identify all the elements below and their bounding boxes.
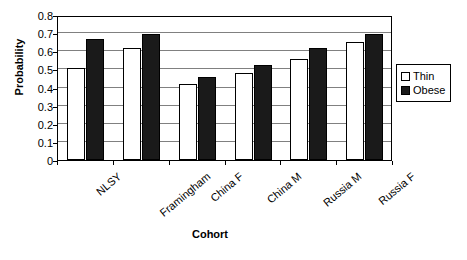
y-tick-label: 0.5 bbox=[13, 65, 53, 75]
bar-obese[interactable] bbox=[365, 34, 383, 160]
legend-label: Thin bbox=[413, 71, 434, 82]
bar-obese[interactable] bbox=[309, 48, 327, 160]
bar-group bbox=[170, 17, 226, 160]
x-tick-mark bbox=[280, 161, 281, 165]
bar-obese[interactable] bbox=[254, 65, 272, 160]
x-tick-mark bbox=[57, 161, 58, 165]
x-tick-mark bbox=[169, 161, 170, 165]
legend-swatch-icon bbox=[401, 86, 410, 95]
bar-group bbox=[337, 17, 393, 160]
y-tick-label: 0.2 bbox=[13, 120, 53, 130]
bar-thin[interactable] bbox=[290, 59, 308, 161]
x-category-label: Framingham bbox=[157, 170, 212, 219]
x-axis-title: Cohort bbox=[0, 228, 420, 240]
bar-group bbox=[226, 17, 282, 160]
x-category-label: Russia F bbox=[376, 170, 417, 207]
bar-obese[interactable] bbox=[142, 34, 160, 160]
legend-item-thin[interactable]: Thin bbox=[401, 69, 445, 83]
y-tick-label: 0.8 bbox=[13, 11, 53, 21]
y-tick-label: 0.6 bbox=[13, 47, 53, 57]
x-category-label: China F bbox=[208, 170, 245, 204]
y-tick-label: 0 bbox=[13, 156, 53, 166]
x-tick-mark bbox=[225, 161, 226, 165]
x-category-label: China M bbox=[264, 170, 303, 206]
y-tick-label: 0.4 bbox=[13, 84, 53, 94]
bar-thin[interactable] bbox=[179, 84, 197, 160]
bar-group bbox=[58, 17, 114, 160]
chart-legend: ThinObese bbox=[396, 64, 451, 102]
bar-chart-figure: Probability 00.10.20.30.40.50.60.70.8 NL… bbox=[0, 0, 467, 260]
y-tick-label: 0.1 bbox=[13, 138, 53, 148]
y-tick-label: 0.3 bbox=[13, 102, 53, 112]
bar-thin[interactable] bbox=[346, 42, 364, 160]
x-tick-mark bbox=[113, 161, 114, 165]
x-category-label: Russia M bbox=[321, 170, 364, 209]
y-tick-label: 0.7 bbox=[13, 29, 53, 39]
legend-swatch-icon bbox=[401, 72, 410, 81]
bar-thin[interactable] bbox=[67, 68, 85, 160]
plot-area bbox=[57, 16, 392, 161]
bar-obese[interactable] bbox=[86, 39, 104, 160]
legend-item-obese[interactable]: Obese bbox=[401, 83, 445, 97]
bar-group bbox=[114, 17, 170, 160]
bar-group bbox=[281, 17, 337, 160]
legend-label: Obese bbox=[413, 85, 445, 96]
bar-obese[interactable] bbox=[198, 77, 216, 160]
bar-thin[interactable] bbox=[235, 73, 253, 160]
x-tick-mark bbox=[336, 161, 337, 165]
bar-thin[interactable] bbox=[123, 48, 141, 160]
x-category-label: NLSY bbox=[94, 170, 124, 198]
x-tick-mark bbox=[392, 161, 393, 165]
